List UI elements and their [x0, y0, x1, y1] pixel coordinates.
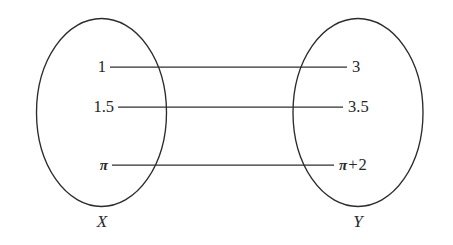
domain-set-name: X: [86, 213, 118, 230]
domain-element-label-1: 1: [60, 59, 106, 76]
codomain-element-label-2: 3.5: [348, 99, 369, 116]
codomain-addend: 2: [359, 155, 367, 174]
figure-canvas: [0, 0, 453, 245]
codomain-plus-symbol: +: [347, 155, 358, 174]
codomain-element-label-3: π+2: [339, 157, 367, 174]
set-mapping-figure: 1 1.5 π 3 3.5 π+2 X Y: [0, 0, 453, 245]
codomain-pi-symbol: π: [339, 157, 347, 173]
codomain-element-label-1: 3: [352, 59, 360, 76]
domain-element-label-2: 1.5: [58, 99, 114, 116]
codomain-set-name: Y: [342, 213, 374, 230]
domain-element-label-3: π: [60, 158, 108, 173]
